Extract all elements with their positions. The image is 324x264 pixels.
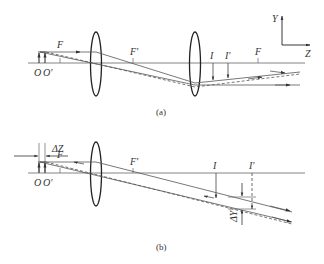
label-o-prime-b: O' — [43, 177, 53, 188]
caption-a: (a) — [156, 107, 166, 117]
label-rear-focus-b: F' — [129, 156, 139, 167]
label-o: O — [34, 67, 41, 78]
label-z-axis: Z — [305, 48, 311, 59]
label-o-b: O — [34, 177, 41, 188]
label-front-focus-b: F — [56, 149, 64, 160]
coordinate-axes: Y Z — [272, 13, 311, 59]
label-front-focus: F — [56, 39, 64, 50]
label-image-i: I — [209, 50, 214, 61]
caption-b: (b) — [156, 242, 167, 252]
ray-3-dashed — [46, 52, 300, 87]
diagram-a: O O' F F' I I' F Y — [28, 13, 311, 117]
diagram-b: ΔZ O O' F F' I I' ΔY — [14, 142, 305, 252]
ray-1-arrow — [270, 71, 285, 73]
ray-b-1-arrow — [270, 206, 290, 211]
label-image-i-prime-b: I' — [248, 160, 255, 171]
optics-figure: O O' F F' I I' F Y — [0, 0, 324, 264]
label-rear-focus-lens2: F — [254, 46, 262, 57]
label-rear-focus-lens1: F' — [129, 46, 139, 57]
label-delta-y: ΔY — [228, 209, 239, 223]
label-image-i-prime: I' — [224, 50, 231, 61]
label-y-axis: Y — [272, 13, 279, 24]
label-image-i-b: I — [212, 160, 217, 171]
ray-b-2 — [40, 162, 292, 222]
label-o-prime: O' — [43, 67, 53, 78]
ray-b-back-arrow-2 — [204, 196, 214, 198]
ray-b-3-dashed — [46, 162, 292, 224]
